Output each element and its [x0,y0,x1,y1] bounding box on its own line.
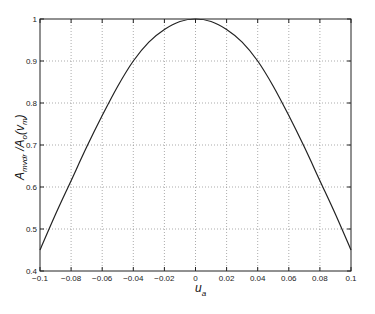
x-tick-label: 0.02 [219,274,235,283]
y-tick-label: 0.6 [26,183,38,192]
y-axis-label: Amvdr /Ao(vm) [13,114,29,181]
x-axis-label: ua [195,281,207,298]
x-tick-label: 0.06 [281,274,297,283]
data-series [40,19,351,250]
x-tick-label: 0.04 [250,274,266,283]
y-axis-ticks: 0.40.50.60.70.80.91 [26,15,351,276]
x-axis-ticks: −0.1−0.08−0.06−0.04−0.0200.020.040.060.0… [32,19,357,283]
x-tick-label: −0.04 [123,274,144,283]
y-tick-label: 0.8 [26,99,38,108]
y-tick-label: 1 [33,15,38,24]
y-tick-label: 0.7 [26,141,38,150]
grid-lines [40,19,351,271]
y-tick-label: 0.9 [26,57,38,66]
y-tick-label: 0.5 [26,225,38,234]
line-chart: −0.1−0.08−0.06−0.04−0.0200.020.040.060.0… [0,0,375,314]
x-tick-label: 0.08 [312,274,328,283]
series-line [40,19,351,250]
x-tick-label: 0.1 [345,274,357,283]
x-tick-label: −0.02 [154,274,175,283]
y-tick-label: 0.4 [26,267,38,276]
x-tick-label: −0.08 [61,274,82,283]
x-tick-label: −0.06 [92,274,113,283]
